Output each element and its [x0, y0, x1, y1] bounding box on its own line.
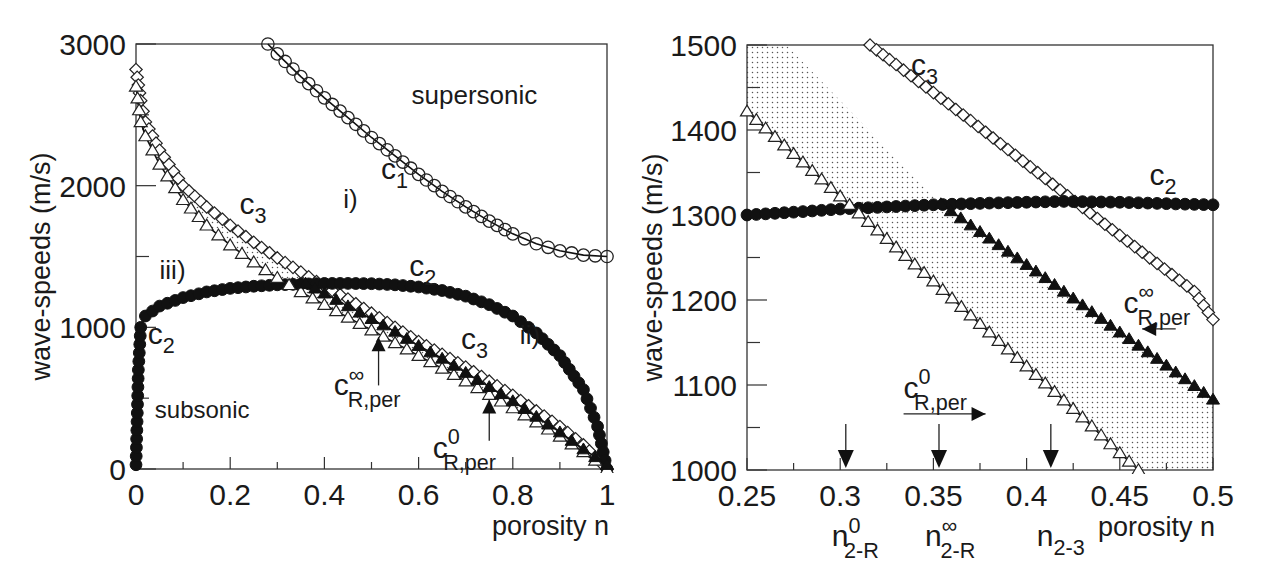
- y-tick-label: 1400: [670, 114, 737, 147]
- y-tick-label: 1000: [59, 311, 126, 344]
- x-tick-label: 0.45: [1091, 479, 1149, 512]
- y-tick-label: 1300: [670, 199, 737, 232]
- series-c2: [741, 196, 1219, 221]
- x-axis-label: porosity n: [1098, 512, 1215, 542]
- curve-label-c2: c2: [148, 317, 175, 358]
- threshold-label-2-r-0: n02-R: [832, 513, 879, 564]
- curve-label-c1: c1: [381, 152, 408, 193]
- region-annotation: ii): [520, 320, 540, 350]
- y-axis-label: wave-speeds (m/s): [638, 153, 668, 382]
- x-tick-label: 0.4: [1006, 479, 1048, 512]
- region-annotation: supersonic: [412, 80, 538, 110]
- x-tick-label: 1: [599, 478, 616, 511]
- x-axis: 00.20.40.60.81: [128, 457, 616, 511]
- x-tick-label: 0.35: [904, 479, 962, 512]
- chart-panel-right: 0.250.30.350.40.450.51000110012001300140…: [638, 29, 1234, 563]
- x-tick-label: 0.2: [209, 478, 251, 511]
- chart-panel-left: 00.20.40.60.810100020003000porosity nwav…: [26, 28, 615, 541]
- threshold-label-2-3: n2-3: [1037, 519, 1085, 560]
- series-line: [268, 44, 607, 257]
- y-tick-label: 1000: [670, 454, 737, 487]
- x-tick-label: 0.8: [492, 478, 534, 511]
- curve-label-c2: c2: [1150, 158, 1177, 199]
- region-annotation: i): [343, 184, 357, 214]
- x-tick-label: 0.6: [398, 478, 440, 511]
- arrow-label-c-r-per-0: c0R,per: [433, 424, 496, 475]
- x-tick-label: 0.4: [304, 478, 346, 511]
- filled-circle-marker: [135, 321, 147, 333]
- filled-circle-marker: [1207, 199, 1219, 211]
- arrow-label-c-r-per-inf: c∞R,per: [334, 362, 401, 413]
- y-tick-label: 0: [109, 453, 126, 486]
- series-c-r-per-0: [740, 105, 1144, 475]
- arrowhead-icon: [972, 407, 986, 421]
- region-annotation: subsonic: [155, 396, 250, 423]
- region-annotation: iii): [160, 255, 186, 285]
- threshold-label-2-r-inf: n∞2-R: [925, 513, 975, 564]
- figure: 00.20.40.60.810100020003000porosity nwav…: [0, 0, 1262, 571]
- arrow-label-c-r-per-inf: c∞R,per: [1124, 279, 1191, 330]
- x-tick-label: 0.3: [819, 479, 861, 512]
- series-c1: [262, 38, 614, 263]
- x-tick-label: 0.5: [1192, 479, 1234, 512]
- curve-label-c3: c3: [240, 187, 267, 228]
- y-tick-label: 1100: [672, 369, 737, 402]
- y-tick-label: 1500: [670, 29, 737, 62]
- arrow-label-c-r-per-0: c0R,per: [904, 364, 967, 415]
- x-axis-label: porosity n: [492, 511, 609, 541]
- curve-label-c3: c3: [461, 322, 488, 363]
- down-arrow-icon: [1043, 450, 1059, 468]
- y-tick-label: 1200: [670, 284, 737, 317]
- y-axis-label: wave-speeds (m/s): [26, 152, 56, 381]
- y-tick-label: 3000: [59, 28, 126, 61]
- x-tick-label: 0: [128, 478, 145, 511]
- y-tick-label: 2000: [59, 170, 126, 203]
